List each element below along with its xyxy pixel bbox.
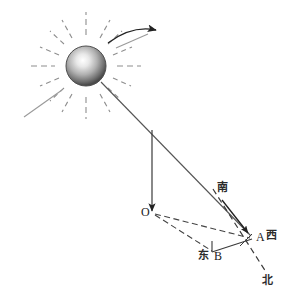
shadow-line-o-to-b: [155, 215, 212, 251]
label-point-b: B: [214, 250, 222, 262]
solar-ray-upper-right: [116, 34, 148, 48]
shadow-direction-arrow-icon: [222, 200, 248, 233]
label-south: 南: [217, 182, 228, 193]
sun-ray: [113, 78, 131, 86]
sun-ray: [62, 94, 72, 112]
label-point-o: O: [141, 206, 150, 218]
solar-ray-lower-left: [24, 90, 62, 117]
incident-sunlight-ray: [101, 82, 251, 236]
label-north: 北: [262, 275, 273, 286]
label-point-a: A: [256, 231, 265, 243]
diagram-canvas: O A 西 B 东 南 北: [0, 0, 295, 308]
sun-ray: [62, 20, 72, 38]
sun-ray: [50, 31, 64, 44]
label-east: 东: [198, 250, 209, 261]
sun-icon: [66, 46, 106, 86]
sun-ray: [40, 78, 59, 86]
sun-ray: [108, 88, 121, 100]
sun-ray: [40, 47, 59, 55]
sun-ray: [113, 47, 132, 55]
label-west: 西: [266, 230, 277, 241]
sun-ray: [100, 20, 110, 38]
sun-ray: [100, 94, 110, 112]
sun-shadow-diagram-svg: [0, 0, 295, 308]
